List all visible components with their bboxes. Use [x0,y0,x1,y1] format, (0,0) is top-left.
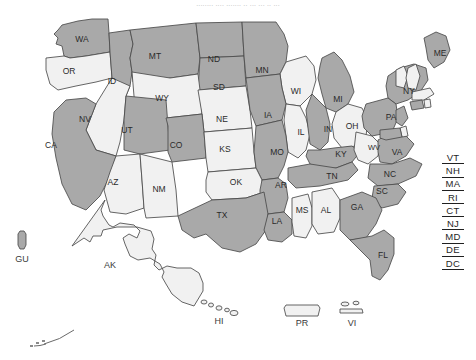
territory-label-AK: AK [104,260,116,270]
state-WA[interactable] [54,19,110,58]
us-map-container: ........ .... ....... .. ... ... .. ... … [0,0,476,360]
state-OR[interactable] [46,52,112,90]
state-TN[interactable] [288,162,358,188]
state-LA[interactable] [264,212,292,242]
state-CO[interactable] [166,114,206,162]
territory-label-GU: GU [15,254,29,264]
territory-label-HI: HI [215,316,224,326]
state-TX[interactable] [178,192,268,252]
state-CT[interactable] [410,100,424,110]
page-caption: ........ .... ....... .. ... ... .. ... [0,0,476,7]
territory-PR[interactable] [284,305,320,316]
territory-label-PR: PR [296,318,309,328]
state-MO[interactable] [254,120,288,180]
alaska-aleutian-chain [34,330,74,346]
state-MS[interactable] [292,194,312,238]
side-list-item-RI[interactable]: RI [442,192,464,204]
us-map-svg[interactable]: WAORIDMTNDSDMNWIMINYMEWYNEIAILINOHPANVUT… [0,0,476,360]
state-ME[interactable] [424,32,450,68]
state-IA[interactable] [246,74,286,126]
territory-label-VI: VI [348,318,357,328]
state-WV[interactable] [354,132,380,164]
side-list-item-DC[interactable]: DC [442,258,464,270]
side-list-item-DE[interactable]: DE [442,244,464,256]
state-UT[interactable] [124,96,170,154]
territory-GU[interactable] [18,231,26,249]
state-GA[interactable] [340,192,382,240]
state-NE[interactable] [198,86,252,132]
territory-HI[interactable] [201,300,238,316]
side-list-item-VT[interactable]: VT [442,152,464,164]
territory-VI[interactable] [340,301,363,313]
state-AL[interactable] [312,188,340,234]
side-list-item-MD[interactable]: MD [442,231,464,243]
state-SD[interactable] [198,56,246,90]
state-MN[interactable] [242,22,288,78]
state-MI[interactable] [318,52,354,112]
side-list-item-NJ[interactable]: NJ [442,218,464,230]
side-list-item-CT[interactable]: CT [442,205,464,217]
state-RI[interactable] [424,99,431,108]
state-ND[interactable] [196,22,244,58]
side-list-item-MA[interactable]: MA [442,178,464,190]
small-states-list[interactable]: VTNHMARICTNJMDDEDC [434,152,472,271]
state-KS[interactable] [204,128,256,172]
side-list-item-NH[interactable]: NH [442,165,464,177]
state-NM[interactable] [140,154,178,218]
state-NJ[interactable] [396,106,408,126]
